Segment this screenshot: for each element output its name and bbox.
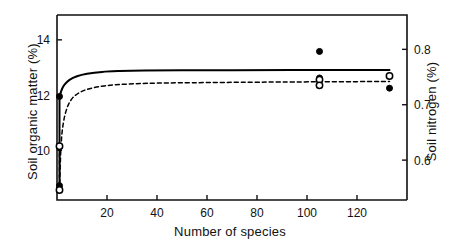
svg-text:60: 60 (200, 206, 214, 220)
y-axis-left-title: Soil organic matter (%) (25, 17, 40, 207)
axis-tick-labels: 204060801001201012140.60.70.8 (37, 33, 431, 220)
chart-canvas: 204060801001201012140.60.70.8 (0, 0, 460, 248)
figure-soil-organic-matter-vs-species: 204060801001201012140.60.70.8 Soil organ… (0, 0, 460, 248)
y-axis-right-title: Soil nitrogen (%) (424, 17, 439, 207)
svg-text:20: 20 (100, 206, 114, 220)
svg-text:80: 80 (250, 206, 264, 220)
fitted-curves (60, 70, 390, 190)
svg-text:40: 40 (150, 206, 164, 220)
x-axis-title: Number of species (0, 224, 460, 239)
svg-text:100: 100 (297, 206, 317, 220)
axis-ticks (57, 40, 407, 200)
plot-frame (57, 15, 407, 200)
svg-text:120: 120 (347, 206, 367, 220)
